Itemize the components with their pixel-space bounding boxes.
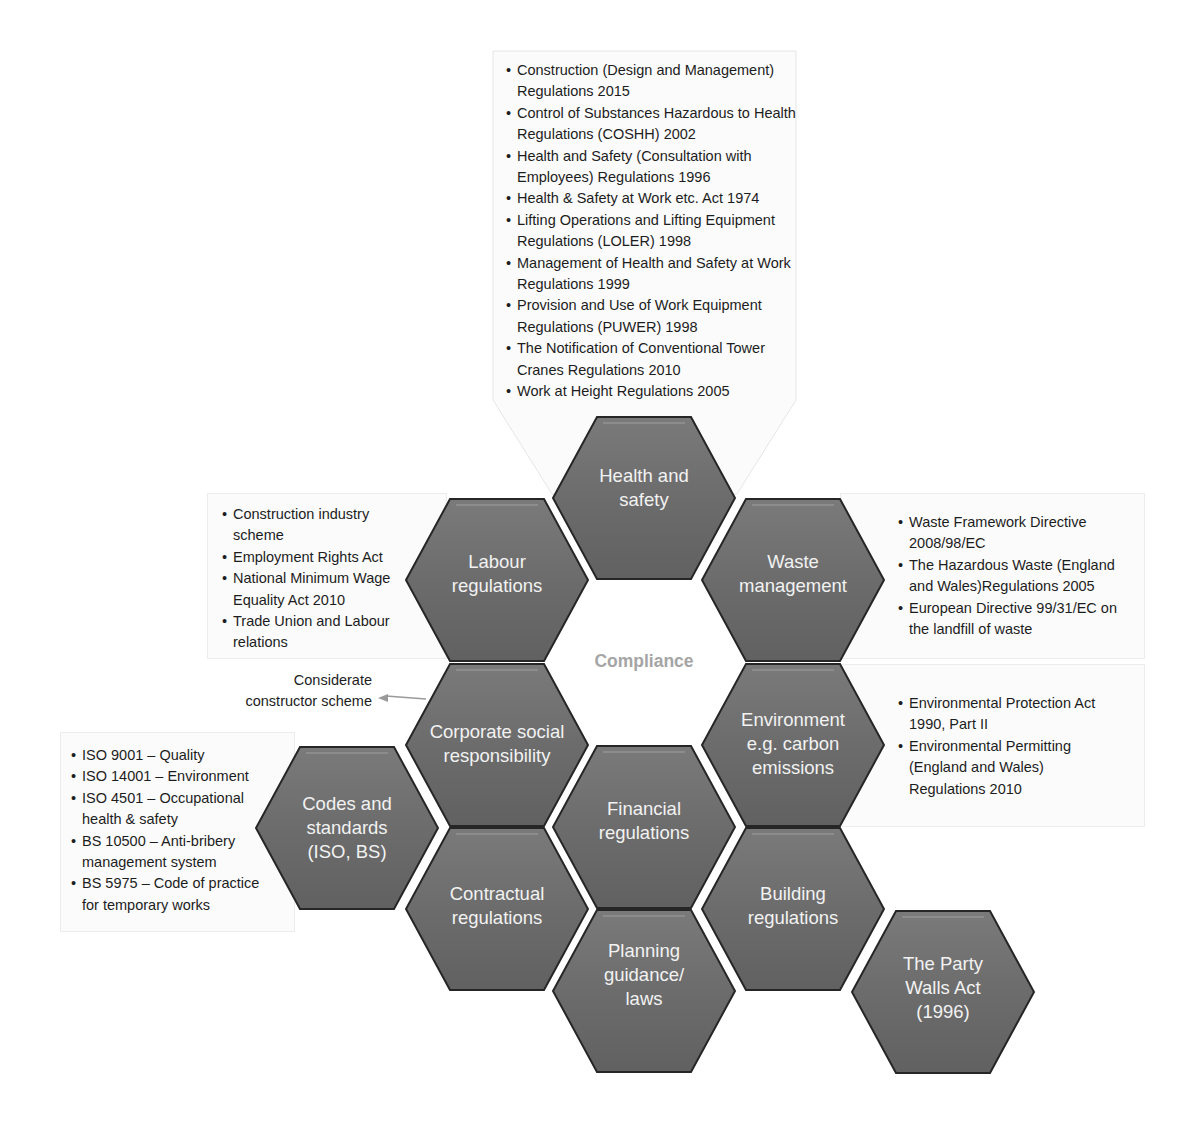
list-item: ISO 9001 – Quality xyxy=(71,745,276,766)
hex-label: Labour regulations xyxy=(426,550,568,598)
hex-label: Environment e.g. carbon emissions xyxy=(722,708,864,780)
hex-label: Waste management xyxy=(722,550,864,598)
list-item: Trade Union and Labour relations xyxy=(222,611,397,654)
list-item: Lifting Operations and Lifting Equipment… xyxy=(506,210,796,253)
hex-planning-guidance[interactable]: Planning guidance/ laws xyxy=(551,908,737,1074)
hex-label: Planning guidance/ laws xyxy=(573,939,715,1011)
codes-standards-list: ISO 9001 – Quality ISO 14001 – Environme… xyxy=(71,745,276,916)
list-item: BS 5975 – Code of practice for temporary… xyxy=(71,873,276,916)
list-item: Health & Safety at Work etc. Act 1974 xyxy=(506,188,796,209)
list-item: Waste Framework Directive 2008/98/EC xyxy=(898,512,1133,555)
list-item: Construction industry scheme xyxy=(222,504,397,547)
waste-management-list: Waste Framework Directive 2008/98/EC The… xyxy=(898,512,1133,640)
labour-regulations-list: Construction industry scheme Employment … xyxy=(222,504,397,654)
list-item: Environmental Protection Act 1990, Part … xyxy=(898,693,1118,736)
list-item: ISO 4501 – Occupational health & safety xyxy=(71,788,276,831)
list-item: Control of Substances Hazardous to Healt… xyxy=(506,103,796,146)
hex-party-walls-act[interactable]: The Party Walls Act (1996) xyxy=(850,909,1036,1075)
list-item: Environmental Permitting (England and Wa… xyxy=(898,736,1118,800)
list-item: Employment Rights Act xyxy=(222,547,397,568)
health-safety-regulations-list: Construction (Design and Management) Reg… xyxy=(506,60,796,403)
hex-label: Health and safety xyxy=(573,464,715,512)
list-item: BS 10500 – Anti-bribery management syste… xyxy=(71,831,276,874)
hex-label: Codes and standards (ISO, BS) xyxy=(276,792,418,864)
list-item: ISO 14001 – Environment xyxy=(71,766,276,787)
hex-label: Building regulations xyxy=(722,882,864,930)
list-item: Construction (Design and Management) Reg… xyxy=(506,60,796,103)
hex-label: Contractual regulations xyxy=(426,882,568,930)
list-item: National Minimum Wage Equality Act 2010 xyxy=(222,568,397,611)
center-label: Compliance xyxy=(594,649,693,673)
list-item: The Notification of Conventional Tower C… xyxy=(506,338,796,381)
list-item: Management of Health and Safety at Work … xyxy=(506,253,796,296)
hex-label: Financial regulations xyxy=(573,797,715,845)
list-item: Provision and Use of Work Equipment Regu… xyxy=(506,295,796,338)
list-item: Health and Safety (Consultation with Emp… xyxy=(506,146,796,189)
hex-label: The Party Walls Act (1996) xyxy=(872,952,1014,1024)
environment-list: Environmental Protection Act 1990, Part … xyxy=(898,693,1118,800)
list-item: The Hazardous Waste (England and Wales)R… xyxy=(898,555,1133,598)
csr-note: Considerate constructor scheme xyxy=(222,670,372,713)
list-item: European Directive 99/31/EC on the landf… xyxy=(898,598,1133,641)
hex-label: Corporate social responsibility xyxy=(426,720,568,768)
list-item: Work at Height Regulations 2005 xyxy=(506,381,796,402)
